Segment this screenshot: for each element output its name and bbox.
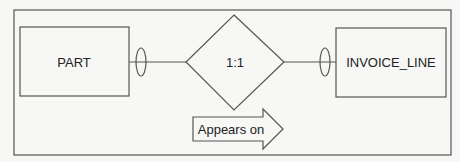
direction-arrow: Appears on [193,109,283,149]
entity-invoice-line-label: INVOICE_LINE [346,55,436,70]
direction-arrow-label: Appears on [198,122,265,137]
relationship-diamond: 1:1 [186,15,284,110]
entity-invoice-line: INVOICE_LINE [336,28,446,97]
er-diagram: PART 1:1 INVOICE_LINE Appears on [0,0,460,162]
relationship-cardinality-label: 1:1 [226,55,244,70]
entity-part: PART [20,27,129,96]
entity-part-label: PART [57,55,91,70]
